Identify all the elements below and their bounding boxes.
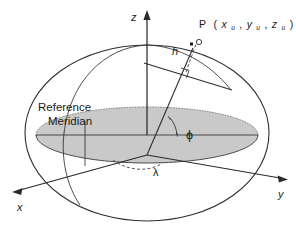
x-axis-arrowhead [12, 188, 23, 195]
reference-meridian-label-line2: Meridian [48, 115, 92, 127]
point-p-close-paren: ) [290, 18, 294, 30]
geodetic-ellipsoid-figure: z y x h P ( x u , y u , z [0, 0, 296, 226]
point-p-open-paren: ( [213, 18, 217, 30]
point-p-coord-y: y [246, 18, 253, 30]
height-dashed-segment [186, 44, 196, 72]
point-p-sub-x: u [231, 24, 235, 31]
point-p-label-group: P ( x u , y u , z u ) [199, 14, 293, 33]
z-axis-arrowhead [143, 10, 150, 20]
point-p-sub-z: u [282, 24, 286, 31]
point-p-name: P [199, 18, 206, 30]
x-axis-line [20, 155, 147, 190]
latitude-label: ϕ [186, 128, 193, 142]
point-p-open-marker [196, 39, 201, 44]
y-axis-label: y [277, 188, 285, 200]
point-p-comma-2: , [264, 18, 267, 30]
y-axis-arrowhead [278, 175, 288, 182]
point-p-comma-1: , [239, 18, 242, 30]
figure-svg: z y x h P ( x u , y u , z [0, 0, 296, 226]
point-p-coord-z: z [271, 18, 278, 30]
point-p-coord-x: x [220, 18, 227, 30]
point-p-sub-y: u [256, 24, 260, 31]
z-axis-label: z [130, 11, 137, 23]
point-p-filled-marker [190, 43, 193, 46]
reference-meridian-label-line1: Reference [38, 101, 91, 113]
longitude-label: λ [153, 166, 159, 178]
height-label: h [172, 45, 178, 57]
x-axis-label: x [16, 201, 23, 213]
